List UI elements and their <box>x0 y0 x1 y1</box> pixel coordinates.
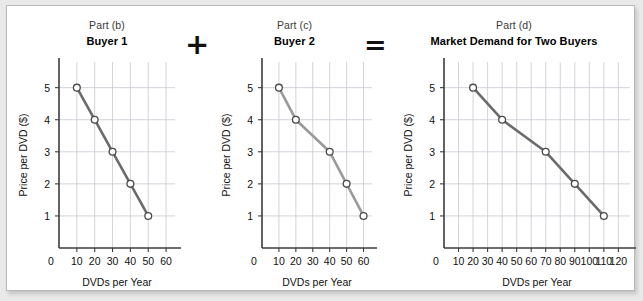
data-point-marker <box>145 213 152 220</box>
y-tick-label: 2 <box>247 178 253 190</box>
y-tick-label: 1 <box>44 210 50 222</box>
panel-buyer-1: Part (b) Buyer 1 010203040506012345Price… <box>7 6 207 292</box>
x-tick-label: 30 <box>107 255 119 267</box>
x-tick-label: 60 <box>358 255 370 267</box>
panel-title-d: Market Demand for Two Buyers <box>392 35 636 47</box>
x-tick-label: 80 <box>554 255 566 267</box>
x-tick-label: 50 <box>341 255 353 267</box>
data-point-marker <box>127 180 134 187</box>
data-point-marker <box>542 148 549 155</box>
equals-operator-icon: = <box>364 31 387 58</box>
x-tick-label: 40 <box>324 255 336 267</box>
x-tick-label: 20 <box>290 255 302 267</box>
y-tick-label: 3 <box>44 146 50 158</box>
y-tick-label: 4 <box>429 114 435 126</box>
x-tick-label: 60 <box>160 255 172 267</box>
chart-buyer-2: 010203040506012345Price per DVD ($)DVDs … <box>212 54 377 292</box>
part-label-d: Part (d) <box>392 19 636 31</box>
data-point-marker <box>600 213 607 220</box>
x-tick-label: 10 <box>273 255 285 267</box>
data-point-marker <box>499 116 506 123</box>
x-tick-label: 0 <box>48 255 54 267</box>
plot-area: 010203040506012345Price per DVD ($)DVDs … <box>7 54 207 292</box>
x-tick-label: 90 <box>569 255 581 267</box>
y-tick-label: 2 <box>44 178 50 190</box>
y-tick-label: 5 <box>44 82 50 94</box>
panel-buyer-2: Part (c) Buyer 2 010203040506012345Price… <box>212 6 377 292</box>
x-tick-label: 50 <box>142 255 154 267</box>
x-tick-label: 40 <box>125 255 137 267</box>
x-tick-label: 30 <box>482 255 494 267</box>
x-tick-label: 40 <box>496 255 508 267</box>
y-tick-label: 4 <box>247 114 253 126</box>
data-point-marker <box>360 213 367 220</box>
y-tick-label: 5 <box>429 82 435 94</box>
y-tick-label: 1 <box>247 210 253 222</box>
data-point-marker <box>109 148 116 155</box>
x-tick-label: 70 <box>540 255 552 267</box>
x-tick-label: 10 <box>71 255 83 267</box>
y-axis-title: Price per DVD ($) <box>17 114 29 197</box>
y-axis-title: Price per DVD ($) <box>220 114 232 197</box>
data-point-marker <box>326 148 333 155</box>
plot-area: 010203040506012345Price per DVD ($)DVDs … <box>212 54 377 292</box>
data-point-marker <box>73 84 80 91</box>
y-tick-label: 4 <box>44 114 50 126</box>
panel-title-b: Buyer 1 <box>7 35 207 47</box>
x-tick-label: 20 <box>89 255 101 267</box>
y-tick-label: 5 <box>247 82 253 94</box>
x-tick-label: 0 <box>433 255 439 267</box>
x-tick-label: 30 <box>307 255 319 267</box>
x-axis-title: DVDs per Year <box>502 276 572 288</box>
chart-market-demand: 010203040506070809010011012012345Price p… <box>392 54 636 292</box>
data-point-marker <box>343 180 350 187</box>
data-point-marker <box>571 180 578 187</box>
x-tick-label: 50 <box>511 255 523 267</box>
data-point-marker <box>276 84 283 91</box>
x-tick-label: 10 <box>453 255 465 267</box>
panel-market-demand: Part (d) Market Demand for Two Buyers 01… <box>392 6 636 292</box>
y-tick-label: 3 <box>429 146 435 158</box>
y-tick-label: 1 <box>429 210 435 222</box>
panel-title-c: Buyer 2 <box>212 35 377 47</box>
plus-operator-icon: + <box>185 30 209 59</box>
x-tick-label: 20 <box>467 255 479 267</box>
part-label-b: Part (b) <box>7 19 207 31</box>
data-point-marker <box>470 84 477 91</box>
plot-area: 010203040506070809010011012012345Price p… <box>392 54 636 292</box>
data-point-marker <box>292 116 299 123</box>
y-tick-label: 2 <box>429 178 435 190</box>
x-tick-label: 60 <box>525 255 537 267</box>
x-axis-title: DVDs per Year <box>282 276 352 288</box>
x-axis-title: DVDs per Year <box>82 276 152 288</box>
y-axis-title: Price per DVD ($) <box>402 114 414 197</box>
x-tick-label: 0 <box>251 255 257 267</box>
x-tick-label: 120 <box>610 255 628 267</box>
part-label-c: Part (c) <box>212 19 377 31</box>
y-tick-label: 3 <box>247 146 253 158</box>
data-point-marker <box>91 116 98 123</box>
figure-card: Part (b) Buyer 1 010203040506012345Price… <box>6 5 635 291</box>
chart-buyer-1: 010203040506012345Price per DVD ($)DVDs … <box>7 54 207 292</box>
